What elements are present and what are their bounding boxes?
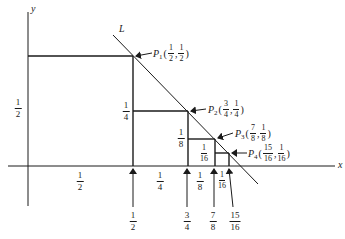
width-label-1-4: 14 bbox=[157, 171, 164, 192]
y-axis-label: y bbox=[31, 4, 35, 14]
width-label-1-8: 18 bbox=[197, 171, 204, 192]
diagram-canvas bbox=[0, 0, 345, 239]
rectangle-4 bbox=[215, 153, 229, 166]
height-label-1-2: 12 bbox=[15, 98, 22, 119]
x-axis-label: x bbox=[338, 160, 342, 170]
line-l-label: L bbox=[119, 24, 125, 34]
point-label-p1: P1( 12, 12) bbox=[153, 44, 189, 63]
p1-pointer-arrow bbox=[136, 53, 152, 56]
rectangle-1 bbox=[28, 56, 133, 166]
point-label-p4: P4( 1516, 116) bbox=[248, 144, 290, 163]
height-label-1-8: 18 bbox=[178, 128, 185, 149]
x-marker-label-7-8: 78 bbox=[210, 211, 217, 232]
x-marker-label-3-4: 34 bbox=[184, 211, 191, 232]
p3-pointer-arrow bbox=[218, 133, 233, 138]
x-marker-label-15-16: 1516 bbox=[230, 211, 241, 232]
height-label-1-16: 116 bbox=[200, 144, 208, 163]
width-label-1-2: 12 bbox=[77, 171, 84, 192]
height-label-1-4: 14 bbox=[123, 101, 130, 122]
width-label-1-16: 116 bbox=[218, 171, 226, 190]
p2-pointer-arrow bbox=[191, 109, 206, 111]
marker-arrow-15-16 bbox=[229, 169, 233, 207]
x-marker-label-1-2: 12 bbox=[130, 211, 137, 232]
point-label-p3: P3( 78, 18) bbox=[235, 124, 271, 143]
point-label-p2: P2( 34, 14) bbox=[208, 100, 244, 119]
